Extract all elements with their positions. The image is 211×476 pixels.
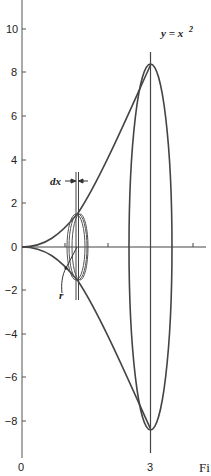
dx-label: dx (50, 175, 62, 187)
curve-label-exponent: 2 (188, 25, 193, 34)
y-tick-label-8: 8 (11, 66, 17, 78)
x-tick-label-0: 0 (18, 461, 24, 473)
r-label: r (59, 289, 64, 301)
y-tick-label-6: 6 (11, 110, 17, 122)
y-tick-label-neg8: −8 (5, 415, 18, 427)
y-tick-label-neg2: −2 (5, 284, 18, 296)
y-tick-label-0: 0 (11, 241, 17, 253)
y-tick-label-2: 2 (11, 197, 17, 209)
solid-of-revolution-diagram: 10 8 6 4 2 0 −2 −4 −6 −8 0 3 Fi y = x 2 … (0, 0, 211, 476)
y-ticks (22, 29, 26, 421)
y-tick-label-neg6: −6 (5, 371, 18, 383)
x-tick-label-3b: 3 (147, 461, 153, 473)
figure-label: Fi (199, 460, 210, 475)
y-tick-label-10: 10 (6, 23, 18, 35)
curve-label: y = x (159, 27, 184, 39)
y-tick-label-4: 4 (11, 154, 17, 166)
y-tick-label-neg4: −4 (5, 328, 18, 340)
